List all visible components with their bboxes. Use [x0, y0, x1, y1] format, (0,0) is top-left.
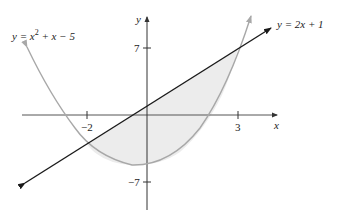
x-axis-label: x — [274, 120, 279, 131]
shaded-region — [87, 48, 238, 165]
y-axis-label: y — [136, 14, 141, 25]
parabola-label-main: y = x — [12, 30, 35, 42]
tick-label-x-neg2: −2 — [81, 122, 93, 133]
parabola-label: y = x2 + x − 5 — [12, 29, 75, 42]
tick-label-y-7: 7 — [134, 43, 140, 54]
tick-label-y-neg7: −7 — [128, 177, 140, 188]
line-label: y = 2x + 1 — [277, 19, 324, 30]
tick-label-x-3: 3 — [235, 122, 241, 133]
parabola-label-rest: + x − 5 — [39, 30, 75, 42]
